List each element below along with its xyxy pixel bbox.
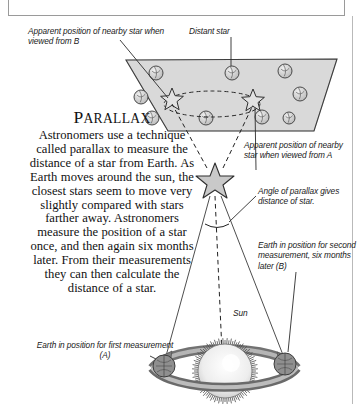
article-block: PARALLAX Astronomers use a technique cal… (24, 108, 200, 296)
nearby-star (196, 163, 234, 198)
distant-star-2 (225, 66, 239, 80)
caption-distant-star: Distant star (189, 26, 299, 36)
sun-highlight (222, 354, 240, 372)
caption-apparent-position-a: Apparent position of nearby star when vi… (244, 140, 356, 161)
title-initial: P (73, 107, 83, 127)
distant-star-3 (278, 64, 292, 78)
distant-star-5 (293, 87, 307, 101)
parallax-angle-arc (205, 224, 229, 227)
figure-page: Apparent position of nearby star when vi… (0, 0, 361, 404)
distant-star-4 (134, 90, 148, 104)
leader-earth-b (288, 272, 296, 352)
page-title: PARALLAX (24, 108, 200, 128)
earth-position-b (274, 353, 296, 375)
title-smallcaps: ARALLAX (84, 111, 151, 126)
caption-apparent-position-b: Apparent position of nearby star when vi… (28, 26, 178, 47)
article-body: Astronomers use a technique called paral… (24, 129, 200, 296)
distant-star-7 (199, 111, 213, 125)
caption-earth-position-a: Earth in position for first measurement … (35, 340, 175, 361)
caption-sun: Sun (233, 308, 273, 318)
caption-angle-of-parallax: Angle of parallax gives distance of star… (258, 186, 358, 207)
leader-angle (229, 196, 256, 222)
caption-earth-position-b: Earth in position for second measurement… (258, 240, 358, 271)
distant-star-8 (255, 110, 269, 124)
distant-star-9 (283, 112, 295, 124)
